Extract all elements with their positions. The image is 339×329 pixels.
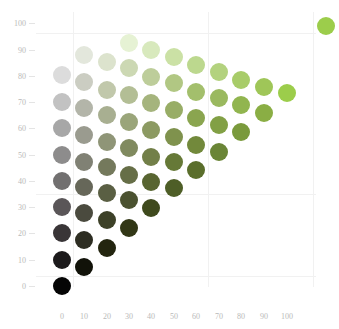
x-tick-label: 70: [215, 312, 223, 321]
color-swatch: [120, 86, 138, 104]
color-swatch: [98, 106, 116, 124]
color-swatch: [53, 224, 71, 242]
y-tick-label: 0: [0, 282, 26, 291]
y-tick: [29, 207, 35, 208]
gridline-v: [313, 12, 314, 287]
color-swatch: [165, 179, 183, 197]
color-swatch: [120, 219, 138, 237]
gridline-v: [208, 12, 209, 287]
color-swatch: [98, 211, 116, 229]
color-swatch: [75, 99, 93, 117]
color-swatch: [120, 166, 138, 184]
color-swatch: [98, 239, 116, 257]
y-tick: [29, 181, 35, 182]
color-swatch: [53, 277, 71, 295]
color-swatch: [187, 161, 205, 179]
color-swatch: [75, 73, 93, 91]
color-swatch: [75, 178, 93, 196]
color-swatch: [75, 46, 93, 64]
color-swatch: [187, 56, 205, 74]
gridline-h: [36, 33, 316, 34]
color-swatch: [75, 126, 93, 144]
x-tick-label: 80: [237, 312, 245, 321]
y-tick: [29, 102, 35, 103]
color-swatch: [165, 48, 183, 66]
x-tick-label: 10: [80, 312, 88, 321]
y-tick: [29, 128, 35, 129]
gridline-h: [36, 276, 316, 277]
color-swatch: [142, 121, 160, 139]
color-swatch: [120, 191, 138, 209]
color-swatch: [165, 101, 183, 119]
x-tick-label: 40: [147, 312, 155, 321]
color-swatch: [255, 78, 273, 96]
color-swatch: [98, 53, 116, 71]
color-swatch: [142, 199, 160, 217]
y-tick-label: 70: [0, 98, 26, 107]
y-tick: [29, 233, 35, 234]
y-tick: [29, 50, 35, 51]
color-swatch: [142, 148, 160, 166]
x-tick-label: 20: [103, 312, 111, 321]
x-tick-label: 50: [170, 312, 178, 321]
color-swatch: [53, 93, 71, 111]
color-swatch: [187, 136, 205, 154]
color-swatch: [142, 173, 160, 191]
color-swatch: [120, 113, 138, 131]
color-swatch: [210, 89, 228, 107]
y-tick-label: 30: [0, 203, 26, 212]
color-swatch: [278, 84, 296, 102]
y-tick: [29, 76, 35, 77]
color-swatch: [142, 94, 160, 112]
color-swatch: [142, 68, 160, 86]
color-swatch: [232, 96, 250, 114]
color-swatch: [98, 81, 116, 99]
y-tick-label: 60: [0, 124, 26, 133]
y-tick-label: 100: [0, 19, 26, 28]
color-swatch: [53, 172, 71, 190]
color-swatch: [53, 119, 71, 137]
x-tick-label: 0: [60, 312, 64, 321]
color-swatch: [187, 109, 205, 127]
color-swatch: [53, 198, 71, 216]
color-swatch: [75, 153, 93, 171]
color-swatch: [53, 146, 71, 164]
color-swatch: [53, 251, 71, 269]
color-swatch: [75, 204, 93, 222]
gridline-v: [73, 12, 74, 287]
color-swatch: [120, 59, 138, 77]
y-tick-label: 80: [0, 72, 26, 81]
y-tick-label: 40: [0, 177, 26, 186]
color-swatch: [142, 41, 160, 59]
y-tick-label: 50: [0, 151, 26, 160]
color-swatch: [165, 153, 183, 171]
x-tick-label: 30: [125, 312, 133, 321]
color-swatch: [98, 158, 116, 176]
color-swatch: [210, 63, 228, 81]
y-tick-label: 90: [0, 46, 26, 55]
x-tick-label: 90: [260, 312, 268, 321]
color-swatch: [53, 66, 71, 84]
color-swatch: [75, 231, 93, 249]
color-swatch: [120, 34, 138, 52]
color-swatch: [165, 128, 183, 146]
x-tick-label: 100: [281, 312, 293, 321]
y-tick: [29, 23, 35, 24]
color-swatch: [98, 184, 116, 202]
color-swatch: [98, 133, 116, 151]
y-tick: [29, 260, 35, 261]
color-swatch: [165, 74, 183, 92]
x-tick-label: 60: [192, 312, 200, 321]
swatch-chart: 1009080706050403020100 01020304050607080…: [0, 0, 339, 329]
color-swatch: [232, 123, 250, 141]
y-tick: [29, 286, 35, 287]
color-swatch: [255, 104, 273, 122]
color-swatch: [120, 139, 138, 157]
color-swatch: [75, 258, 93, 276]
color-swatch: [317, 17, 335, 35]
y-tick: [29, 155, 35, 156]
color-swatch: [187, 83, 205, 101]
y-tick-label: 10: [0, 256, 26, 265]
y-tick-label: 20: [0, 229, 26, 238]
color-swatch: [210, 143, 228, 161]
